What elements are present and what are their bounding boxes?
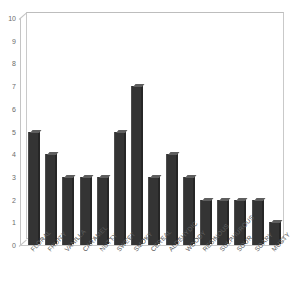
bar[interactable]: [114, 132, 124, 246]
bar-side-face: [158, 176, 160, 244]
y-axis-tick-label: 3: [12, 173, 16, 180]
bars-layer: [20, 12, 285, 246]
y-axis-tick-label: 4: [12, 151, 16, 158]
chart-title: [0, 0, 295, 5]
bar-top-face: [30, 130, 42, 133]
y-axis-tick-label: 5: [12, 128, 16, 135]
bar-top-face: [82, 175, 94, 178]
y-axis-tick-label: 6: [12, 105, 16, 112]
bar-side-face: [72, 176, 74, 244]
bar-side-face: [55, 153, 57, 244]
y-axis-tick-label: 2: [12, 196, 16, 203]
bar-chart: 012345678910 FLORALFRUITYVANILLACARAMELN…: [0, 0, 295, 307]
y-axis-tick-label: 9: [12, 37, 16, 44]
x-axis: FLORALFRUITYVANILLACARAMELNUTTYSWEETSMOK…: [20, 248, 295, 307]
bar-side-face: [124, 131, 126, 245]
bar[interactable]: [28, 132, 38, 246]
bar-side-face: [90, 176, 92, 244]
bar-side-face: [38, 131, 40, 245]
y-axis-tick-label: 8: [12, 60, 16, 67]
bar-top-face: [116, 130, 128, 133]
bar[interactable]: [131, 86, 141, 245]
bar-top-face: [254, 198, 266, 201]
bar-side-face: [193, 176, 195, 244]
y-axis: 012345678910: [0, 12, 18, 246]
bar-side-face: [141, 85, 143, 244]
y-axis-tick-label: 0: [12, 242, 16, 249]
y-axis-tick-label: 10: [8, 15, 16, 22]
bar-side-face: [176, 153, 178, 244]
y-axis-tick-label: 1: [12, 219, 16, 226]
bar-side-face: [107, 176, 109, 244]
y-axis-tick-label: 7: [12, 83, 16, 90]
